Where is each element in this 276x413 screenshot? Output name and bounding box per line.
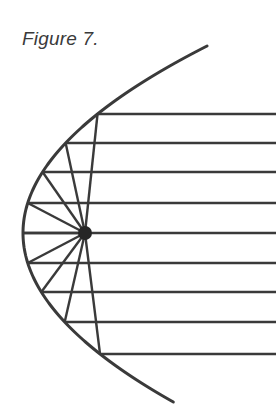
parabolic-reflector-diagram <box>0 0 276 413</box>
parabola-curve <box>23 46 207 402</box>
reflected-ray <box>85 114 98 233</box>
figure-caption: Figure 7. <box>22 28 99 50</box>
reflected-ray <box>28 203 85 233</box>
reflected-ray <box>28 233 85 263</box>
figure-container: Figure 7. <box>0 0 276 413</box>
reflected-ray <box>85 233 100 354</box>
focus-point-dot <box>78 226 92 240</box>
